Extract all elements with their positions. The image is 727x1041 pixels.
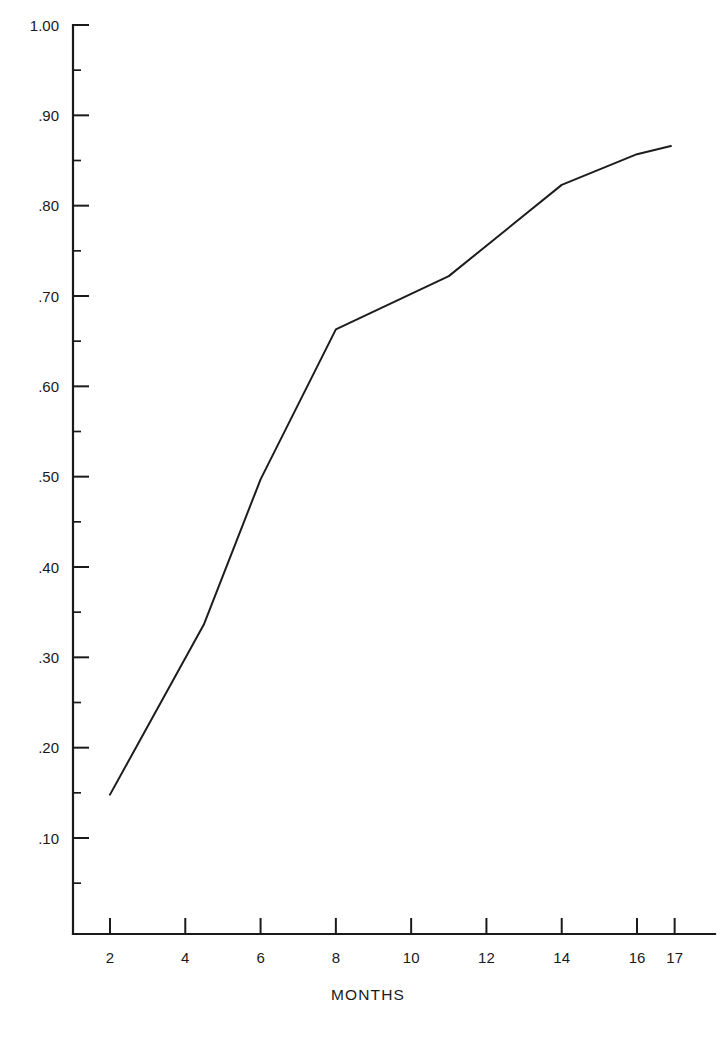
- y-tick-label: .10: [38, 830, 59, 847]
- x-tick-label: 10: [403, 949, 420, 966]
- y-tick-label: .90: [38, 107, 59, 124]
- data-series-group: [110, 146, 671, 795]
- x-tick-label: 6: [256, 949, 264, 966]
- x-tick-label: 12: [478, 949, 495, 966]
- x-tick-label: 8: [332, 949, 340, 966]
- y-tick-label: .80: [38, 197, 59, 214]
- y-tick-label: .50: [38, 468, 59, 485]
- y-tick-label: .30: [38, 649, 59, 666]
- x-axis-title: MONTHS: [331, 986, 405, 1003]
- y-tick-label: .60: [38, 378, 59, 395]
- y-tick-label: .40: [38, 559, 59, 576]
- line-chart: .10.20.30.40.50.60.70.80.901.00 24681012…: [0, 0, 727, 1041]
- chart-container: .10.20.30.40.50.60.70.80.901.00 24681012…: [0, 0, 727, 1041]
- y-tick-label: 1.00: [30, 17, 59, 34]
- x-tick-label: 2: [106, 949, 114, 966]
- x-tick-label: 14: [553, 949, 570, 966]
- series-line-cumulative: [110, 146, 671, 795]
- y-tick-label: .70: [38, 288, 59, 305]
- x-tick-label: 4: [181, 949, 189, 966]
- x-axis-tick-labels: 24681012141617: [106, 949, 683, 966]
- y-tick-label: .20: [38, 739, 59, 756]
- y-axis-tick-labels: .10.20.30.40.50.60.70.80.901.00: [30, 17, 59, 847]
- x-tick-label: 16: [629, 949, 646, 966]
- x-tick-label: 17: [666, 949, 683, 966]
- x-axis-ticks: [110, 918, 675, 934]
